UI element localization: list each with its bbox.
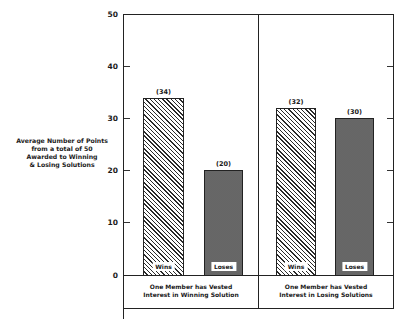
y-tick-label-30: 30 bbox=[102, 114, 118, 123]
y-tick-label-40: 40 bbox=[102, 62, 118, 71]
bar-value-label: (32) bbox=[276, 98, 316, 106]
category-box-bottom bbox=[123, 308, 394, 309]
y-tick-10 bbox=[124, 222, 130, 223]
bar-wins-winning-interest bbox=[143, 98, 184, 276]
category-label-winning-interest: One Member has Vested Interest in Winnin… bbox=[124, 283, 258, 299]
y-tick-label-10: 10 bbox=[102, 218, 118, 227]
y-tick-right-10 bbox=[387, 222, 393, 223]
category-label-line: One Member has Vested bbox=[124, 283, 258, 291]
y-tick-right-40 bbox=[387, 66, 393, 67]
y-axis-title-line: Average Number of Points bbox=[2, 137, 122, 145]
y-axis-title-line: Awarded to Winning bbox=[2, 153, 122, 161]
y-axis-title-line: from a total of 50 bbox=[2, 145, 122, 153]
bar-label-loses: Loses bbox=[342, 262, 367, 271]
bar-label-wins: Wins bbox=[152, 262, 175, 271]
bar-value-label: (34) bbox=[143, 88, 184, 96]
bar-label-loses: Loses bbox=[211, 262, 236, 271]
bar-value-label: (20) bbox=[204, 160, 243, 168]
y-tick-right-20 bbox=[387, 170, 393, 171]
y-tick-20 bbox=[124, 170, 130, 171]
bar-label-wins: Wins bbox=[285, 262, 308, 271]
category-label-line: Interest in Winning Solution bbox=[124, 291, 258, 299]
bar-loses-losing-interest bbox=[335, 118, 374, 276]
y-tick-30 bbox=[124, 118, 130, 119]
group-divider bbox=[258, 14, 259, 309]
bar-loses-winning-interest bbox=[204, 170, 243, 276]
y-tick-label-0: 0 bbox=[102, 271, 118, 280]
category-label-losing-interest: One Member has Vested Interest in Losing… bbox=[259, 283, 393, 299]
y-axis-title: Average Number of Points from a total of… bbox=[2, 137, 122, 169]
y-tick-label-20: 20 bbox=[102, 166, 118, 175]
y-tick-label-50: 50 bbox=[102, 10, 118, 19]
bar-value-label: (30) bbox=[335, 108, 374, 116]
bar-wins-losing-interest bbox=[276, 108, 316, 276]
y-tick-40 bbox=[124, 66, 130, 67]
y-tick-right-30 bbox=[387, 118, 393, 119]
category-label-line: Interest in Losing Solutions bbox=[259, 291, 393, 299]
category-label-line: One Member has Vested bbox=[259, 283, 393, 291]
